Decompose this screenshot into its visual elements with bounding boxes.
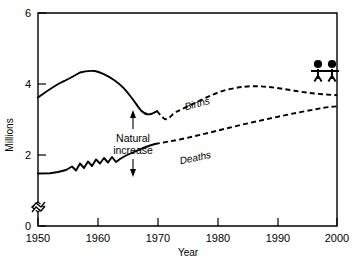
y-axis-break-icon — [32, 202, 45, 212]
y-tick-label-0: 0 — [25, 220, 31, 232]
y-tick-label-4: 4 — [25, 78, 31, 90]
person-icon-1 — [311, 60, 325, 82]
deaths-series-label: Deaths — [179, 149, 212, 166]
natural-increase-label-line1: Natural — [116, 132, 150, 144]
x-tick-label-1950: 1950 — [26, 232, 50, 244]
natural-increase-annotation: Natural increase — [113, 110, 153, 177]
x-axis-title: Year — [178, 247, 199, 258]
natural-increase-down-arrow-head — [130, 169, 136, 177]
x-axis-ticks — [38, 218, 337, 226]
chart-container: 6 4 2 0 Millions 1950 1960 1970 1980 199… — [0, 0, 355, 264]
natural-increase-label-line2: increase — [113, 144, 153, 156]
births-line-historical — [38, 71, 157, 115]
x-tick-label-1990: 1990 — [266, 232, 290, 244]
x-tick-label-1970: 1970 — [146, 232, 170, 244]
plot-frame — [38, 13, 337, 226]
births-series-label: Births — [183, 95, 211, 112]
deaths-line-projected — [155, 106, 337, 144]
x-tick-label-2000: 2000 — [325, 232, 349, 244]
natural-increase-up-arrow-head — [130, 110, 136, 118]
population-line-chart: 6 4 2 0 Millions 1950 1960 1970 1980 199… — [0, 0, 355, 264]
y-tick-label-2: 2 — [25, 149, 31, 161]
x-tick-label-1960: 1960 — [86, 232, 110, 244]
y-tick-label-6: 6 — [25, 7, 31, 19]
y-axis-title: Millions — [4, 118, 15, 151]
x-tick-label-1980: 1980 — [206, 232, 230, 244]
y-axis-ticks — [38, 13, 46, 226]
